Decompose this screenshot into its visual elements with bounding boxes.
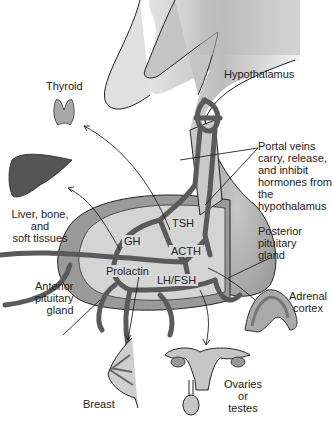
label-posterior-pituitary: Posterior pituitary gland [258,225,302,261]
label-hypothalamus: Hypothalamus [224,68,294,80]
hormone-acth: ACTH [169,245,203,257]
thyroid-icon [54,100,74,125]
label-portal-veins: Portal veins carry, release, and inhibit… [258,140,332,212]
label-breast: Breast [83,398,115,410]
hormone-gh: GH [122,235,143,247]
hormone-lh-fsh: LH/FSH [155,274,198,286]
label-thyroid: Thyroid [46,80,83,92]
label-ovaries-or-testes: Ovaries or testes [220,378,266,414]
label-adrenal-cortex: Adrenal cortex [285,290,331,314]
liver-icon [9,154,72,197]
hormone-tsh: TSH [170,217,196,229]
label-anterior-pituitary: Anterior pituitary gland [35,280,74,316]
hormone-prolactin: Prolactin [104,265,151,277]
hypothalamus-shape [104,0,300,130]
label-liver-bone-soft-tissues: Liver, bone, and soft tissues [10,208,70,244]
